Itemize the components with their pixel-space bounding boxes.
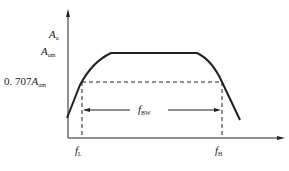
y-axis-label: Au: [49, 28, 59, 41]
fl-label: fL: [75, 144, 82, 157]
half-power-label: 0. 707Aum: [4, 75, 46, 88]
arrow-left-icon: [83, 108, 90, 112]
arrow-right-icon: [214, 108, 221, 112]
y-axis-arrow-icon: [66, 9, 70, 17]
x-axis-arrow-icon: [277, 136, 285, 140]
fh-label: fH: [215, 144, 222, 157]
amax-label: Aum: [41, 45, 55, 58]
bandwidth-label: fBW: [138, 103, 151, 116]
